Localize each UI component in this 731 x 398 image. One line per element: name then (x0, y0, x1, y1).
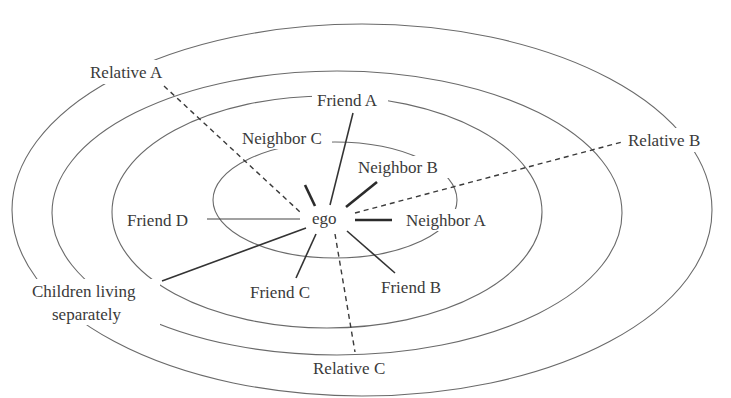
tie-neighbor-c (305, 185, 315, 206)
label-relative-a: Relative A (90, 63, 163, 82)
ties (162, 86, 622, 352)
label-relative-c: Relative C (313, 359, 385, 378)
label-neighbor-b: Neighbor B (358, 158, 438, 177)
label-neighbor-c: Neighbor C (242, 129, 322, 148)
label-relative-b: Relative B (628, 131, 700, 150)
label-children-line2: separately (52, 305, 121, 324)
ego-label: ego (312, 209, 337, 228)
tie-neighbor-b (346, 182, 377, 207)
tie-children (162, 228, 306, 281)
label-neighbor-a: Neighbor A (406, 211, 487, 230)
label-friend-a: Friend A (317, 91, 378, 110)
tie-relative-c (335, 234, 355, 352)
label-children-line1: Children living (32, 282, 136, 301)
label-friend-b: Friend B (381, 278, 441, 297)
ego-network-diagram: ego Relative A Friend A Neighbor C Neigh… (0, 0, 731, 398)
label-friend-c: Friend C (250, 283, 310, 302)
label-friend-d: Friend D (127, 211, 188, 230)
tie-friend-a (330, 113, 353, 205)
